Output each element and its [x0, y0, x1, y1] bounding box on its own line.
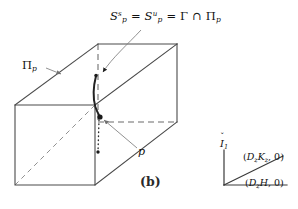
pi-symbol-equation: Π [206, 9, 216, 23]
point-p-label: p [138, 146, 145, 157]
plane-label: Πp [22, 60, 37, 73]
leader-plane-to-edge [46, 68, 61, 74]
I-symbol: I [220, 138, 224, 149]
box-hidden-edges [15, 44, 177, 185]
I-subscript: 1 [224, 143, 228, 151]
pi-symbol: Π [22, 58, 32, 72]
dotted-tail-dot [96, 150, 99, 153]
pi-subscript-equation: p [216, 15, 221, 24]
S-stable-subscript: p [122, 15, 127, 24]
equals-sign-1: = [131, 9, 141, 23]
K-symbol: K [258, 151, 265, 162]
manifold-equation-label: Ssp = Sup = Γ ∩ Πp [110, 10, 221, 23]
S-stable-symbol: S [110, 9, 118, 23]
axis-vertical-label: I1 [220, 139, 228, 150]
S-unstable-symbol: S [145, 9, 153, 23]
zero-tuple-lower: , 0) [268, 177, 284, 188]
figure-container: Ssp = Sup = Γ ∩ Πp Πp p (b) I1 (DzKz, 0)… [0, 0, 298, 209]
coordinate-label-upper: (DzKz, 0) [243, 152, 284, 163]
coordinate-label-lower: (DzH, 0) [245, 178, 284, 189]
pi-subscript: p [32, 64, 37, 73]
figure-caption: (b) [140, 176, 161, 189]
point-p-group [96, 114, 102, 153]
equals-sign-2: = [166, 9, 176, 23]
leader-p-to-point [104, 120, 137, 148]
S-unstable-subscript: p [157, 15, 162, 24]
gamma-symbol: Γ [180, 9, 188, 23]
H-symbol: H [260, 177, 268, 188]
leader-formula-to-curve [103, 30, 141, 72]
zero-tuple-upper: , 0) [268, 151, 284, 162]
intersection-symbol: ∩ [192, 9, 202, 23]
manifold-endpoint-dot [94, 74, 97, 77]
point-p-dot [97, 114, 102, 119]
box-visible-edges [15, 44, 177, 185]
